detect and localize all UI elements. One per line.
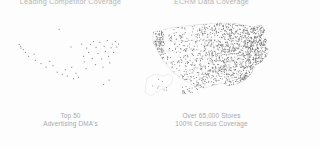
store-dot [202, 27, 203, 28]
dma-dot [52, 65, 53, 66]
store-dot [163, 84, 164, 85]
store-dot [161, 37, 162, 38]
store-dot [226, 27, 227, 28]
dma-dot [101, 58, 102, 59]
store-dot [202, 29, 203, 30]
store-dot [212, 85, 213, 86]
store-dot [182, 83, 183, 84]
store-dot [176, 32, 177, 33]
store-dot [240, 36, 241, 37]
store-dot [231, 75, 232, 76]
store-dot [181, 36, 182, 37]
store-dot [216, 58, 217, 59]
store-dot-hawaii [182, 90, 183, 91]
store-dot [208, 66, 209, 67]
store-dot-hawaii [189, 91, 190, 92]
store-dot [249, 40, 250, 41]
store-dot [235, 81, 236, 82]
store-dot [250, 41, 251, 42]
store-dot [230, 29, 231, 30]
store-dot [262, 23, 263, 24]
store-dot [155, 56, 156, 57]
store-dot [257, 51, 258, 52]
store-dot [151, 70, 152, 71]
store-dot [219, 58, 220, 59]
store-dot [241, 67, 242, 68]
store-dot [252, 64, 253, 65]
store-dot [176, 52, 177, 53]
store-dot [231, 51, 232, 52]
store-dot [267, 46, 268, 47]
store-dot [249, 72, 250, 73]
store-dot [171, 62, 172, 63]
store-dot [228, 61, 229, 62]
store-dot [150, 74, 151, 75]
store-dot [220, 68, 221, 69]
store-dot [157, 48, 158, 49]
store-dot [157, 64, 158, 65]
store-dot-hawaii [186, 86, 187, 87]
state-boundaries [155, 25, 261, 72]
store-dot [259, 58, 260, 59]
store-dot [242, 85, 243, 86]
store-dot [244, 68, 245, 69]
store-dot [210, 29, 211, 30]
store-dot [233, 47, 234, 48]
store-dot [184, 49, 185, 50]
store-dot [257, 22, 258, 23]
store-dot [159, 48, 160, 49]
store-dot [249, 53, 250, 54]
store-dot [167, 25, 168, 26]
store-dot [171, 67, 172, 68]
store-dot [202, 33, 203, 34]
dma-dot [97, 53, 98, 54]
store-dot [224, 64, 225, 65]
store-dot [239, 38, 240, 39]
store-dot [243, 32, 244, 33]
store-dot [241, 74, 242, 75]
store-dot [217, 23, 218, 24]
store-dot [152, 55, 153, 56]
store-dot [245, 86, 246, 87]
store-dot [222, 51, 223, 52]
store-dot [151, 69, 152, 70]
store-dot [212, 30, 213, 31]
store-dot [266, 73, 267, 74]
store-dot [266, 87, 267, 88]
store-dot [242, 54, 243, 55]
store-dot [264, 70, 265, 71]
store-dot [256, 49, 257, 50]
store-dot [240, 44, 241, 45]
store-dot [214, 64, 215, 65]
store-dot [239, 64, 240, 65]
store-dot [151, 66, 152, 67]
store-dot [247, 33, 248, 34]
store-dot [195, 41, 196, 42]
store-dot [263, 29, 264, 30]
store-dot [259, 24, 260, 25]
store-dot [216, 76, 217, 77]
store-dot [238, 48, 239, 49]
store-dot [259, 67, 260, 68]
store-dot [266, 48, 267, 49]
store-dot [208, 75, 209, 76]
store-dot [243, 85, 244, 86]
store-dot [200, 85, 201, 86]
store-dot [264, 75, 265, 76]
store-dot [185, 29, 186, 30]
store-dot [242, 86, 243, 87]
store-dot [237, 63, 238, 64]
store-dot [258, 27, 259, 28]
store-dot [206, 40, 207, 41]
store-dot [255, 68, 256, 69]
store-dot [230, 82, 231, 83]
store-dot [250, 87, 251, 88]
store-dot [242, 55, 243, 56]
store-dot [196, 58, 197, 59]
store-dot [152, 58, 153, 59]
store-dot [163, 54, 164, 55]
store-dot [241, 88, 242, 89]
store-dot [245, 65, 246, 66]
store-dot [245, 51, 246, 52]
store-dot [183, 50, 184, 51]
